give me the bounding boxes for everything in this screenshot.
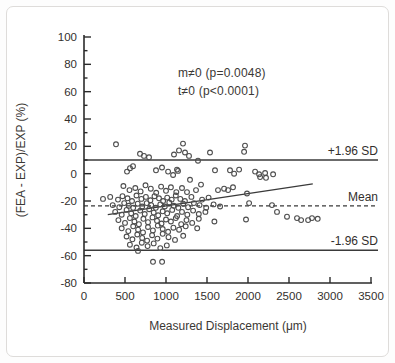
data-point xyxy=(135,201,140,206)
y-tick-label: 100 xyxy=(58,31,77,43)
data-point xyxy=(134,193,139,198)
data-point xyxy=(173,238,178,243)
data-point xyxy=(151,241,156,246)
data-point xyxy=(185,190,190,195)
y-tick-label: 60 xyxy=(64,86,77,98)
data-point xyxy=(197,203,202,208)
data-point xyxy=(186,205,191,210)
data-point xyxy=(169,185,174,190)
data-point xyxy=(140,236,145,241)
data-point xyxy=(124,234,129,239)
y-axis-label: (FEA - EXP)/EXP (%) xyxy=(14,80,28,240)
x-tick-label: 3500 xyxy=(358,290,384,302)
data-point xyxy=(130,199,135,204)
y-tick-label: 0 xyxy=(71,168,77,180)
data-point xyxy=(271,172,276,177)
x-tick-label: 3000 xyxy=(317,290,343,302)
data-point xyxy=(184,218,189,223)
data-point xyxy=(127,242,132,247)
y-tick-label: 40 xyxy=(64,113,77,125)
data-point xyxy=(188,177,193,182)
data-point xyxy=(116,218,121,223)
annotation-line-1: m≠0 (p=0.0048) xyxy=(178,64,266,82)
data-point xyxy=(131,224,136,229)
data-point xyxy=(171,173,176,178)
data-point xyxy=(185,212,190,217)
data-point xyxy=(150,233,155,238)
data-point xyxy=(120,194,125,199)
data-point xyxy=(127,216,132,221)
data-point xyxy=(130,237,135,242)
data-point xyxy=(151,228,156,233)
data-point xyxy=(315,216,320,221)
data-point xyxy=(146,225,151,230)
data-point xyxy=(159,184,164,189)
data-point xyxy=(270,203,275,208)
data-point xyxy=(190,221,195,226)
stats-annotation: m≠0 (p=0.0048) t≠0 (p<0.0001) xyxy=(178,64,266,100)
data-point xyxy=(148,186,153,191)
data-point xyxy=(177,227,182,232)
reference-line-label: -1.96 SD xyxy=(331,234,379,248)
data-point xyxy=(101,197,106,202)
figure: +1.96 SDMean-1.96 SD-80-60-40-2002040608… xyxy=(0,0,395,363)
data-point xyxy=(121,184,126,189)
data-point xyxy=(216,188,221,193)
data-point xyxy=(125,196,130,201)
x-tick-label: 1500 xyxy=(194,290,220,302)
data-point xyxy=(160,259,165,264)
y-tick-label: 20 xyxy=(64,140,77,152)
data-point xyxy=(133,214,138,219)
data-point xyxy=(200,197,205,202)
data-point xyxy=(142,212,147,217)
data-point xyxy=(166,235,171,240)
data-point xyxy=(155,218,160,223)
data-point xyxy=(154,168,159,173)
data-point xyxy=(242,149,247,154)
data-point xyxy=(139,240,144,245)
data-point xyxy=(141,216,146,221)
data-point xyxy=(165,211,170,216)
data-point xyxy=(180,210,185,215)
data-point xyxy=(199,182,204,187)
data-point xyxy=(172,152,177,157)
data-point xyxy=(195,226,200,231)
x-tick-label: 2000 xyxy=(235,290,261,302)
data-point xyxy=(136,227,141,232)
data-point xyxy=(183,224,188,229)
data-point xyxy=(155,236,160,241)
data-point xyxy=(196,212,201,217)
data-point xyxy=(164,188,169,193)
data-point xyxy=(263,171,268,176)
data-point xyxy=(164,243,169,248)
data-point xyxy=(138,189,143,194)
reference-line-label: +1.96 SD xyxy=(328,144,379,158)
data-point xyxy=(156,213,161,218)
data-point xyxy=(147,155,152,160)
data-point xyxy=(151,210,156,215)
data-point xyxy=(189,195,194,200)
data-point xyxy=(142,154,147,159)
data-point xyxy=(126,229,131,234)
data-point xyxy=(228,168,233,173)
data-point xyxy=(150,215,155,220)
data-point xyxy=(146,220,151,225)
x-tick-label: 500 xyxy=(115,290,134,302)
data-point xyxy=(244,217,249,222)
data-point xyxy=(123,221,128,226)
y-tick-label: -80 xyxy=(60,277,77,289)
data-point xyxy=(194,188,199,193)
data-point xyxy=(306,218,311,223)
data-point xyxy=(237,167,242,172)
data-point xyxy=(177,148,182,153)
x-tick-label: 1000 xyxy=(153,290,179,302)
data-point xyxy=(285,214,290,219)
data-point xyxy=(218,204,223,209)
data-point xyxy=(191,208,196,213)
data-point xyxy=(213,168,218,173)
data-point xyxy=(196,158,201,163)
data-point xyxy=(264,175,269,180)
data-point xyxy=(231,185,236,190)
data-point xyxy=(169,219,174,224)
data-point xyxy=(181,141,186,146)
